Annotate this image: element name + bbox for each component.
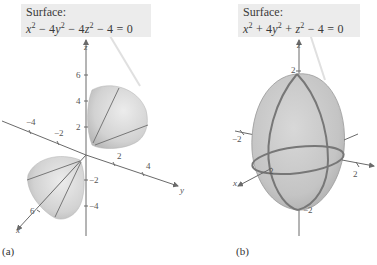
tick-z-neg2: −2: [303, 205, 313, 215]
tick-z-6: 6: [76, 70, 81, 80]
surface-callout: Surface: x2 − 4y2 − 4z2 − 4 = 0: [21, 4, 151, 37]
tick-y-2: 2: [353, 169, 358, 179]
surface-callout: Surface: x2 + 4y2 + z2 − 4 = 0: [238, 4, 360, 37]
tick-y-4: 4: [146, 161, 151, 171]
surface-title: Surface:: [26, 6, 146, 19]
surface-equation: x2 + 4y2 + z2 − 4 = 0: [243, 19, 355, 36]
surface-equation: x2 − 4y2 − 4z2 − 4 = 0: [26, 19, 146, 36]
tick-z-neg2: −2: [89, 175, 99, 185]
ellipsoid-surface: [252, 74, 345, 210]
figure-b: 2 −2 −2 2 2 z x Surface: x2 + 4y2 + z2 −…: [190, 0, 377, 265]
tick-x-2: 2: [269, 166, 274, 176]
ellipsoid-plot: 2 −2 −2 2 2 z x: [190, 0, 377, 265]
tick-z-4: 4: [76, 96, 81, 106]
x-axis-label: x: [15, 225, 20, 235]
figure-label-b: (b): [236, 245, 249, 257]
tick-x-6: 6: [30, 206, 35, 216]
upper-sheet: [88, 86, 148, 149]
hyperboloid-plot: 6 4 2 −2 −4 −4 −2 2 4 6 z y x: [0, 0, 190, 265]
surface-title: Surface:: [243, 6, 355, 19]
tick-y-2: 2: [117, 151, 122, 161]
y-axis-label: y: [179, 185, 184, 195]
z-axis-label: z: [83, 42, 88, 52]
tick-z-2: 2: [291, 65, 296, 75]
tick-y-neg4: −4: [26, 117, 36, 127]
figure-label-a: (a): [2, 245, 14, 257]
figure-a: 6 4 2 −2 −4 −4 −2 2 4 6 z y x Surface: x…: [0, 0, 190, 265]
tick-y-neg2: −2: [54, 128, 64, 138]
y-axis-negative: [2, 121, 86, 155]
tick-y-neg2: −2: [232, 134, 242, 144]
y-axis: [86, 155, 178, 186]
tick-z-2: 2: [76, 122, 81, 132]
x-axis-label: x: [232, 178, 237, 188]
z-axis-label: z: [296, 40, 301, 50]
tick-z-neg4: −4: [89, 201, 99, 211]
